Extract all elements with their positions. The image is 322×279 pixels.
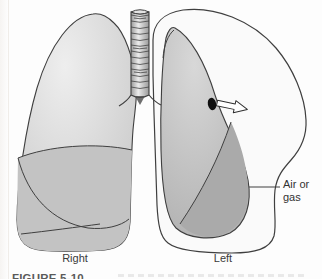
right-lung-label: Right [52,252,98,264]
left-lung-label: Left [200,252,246,264]
trachea-top-cap [131,10,149,14]
figure-caption: FIGURE 5-10 [12,272,84,279]
pneumothorax-figure: Right Left Air or gas FIGURE 5-10 [0,0,322,279]
trachea-body [131,12,149,98]
lungs-illustration [0,0,322,279]
air-gas-annotation: Air or gas [283,178,322,204]
right-lung-lower-lobe [17,146,132,251]
caption-ghost-text [118,274,306,277]
